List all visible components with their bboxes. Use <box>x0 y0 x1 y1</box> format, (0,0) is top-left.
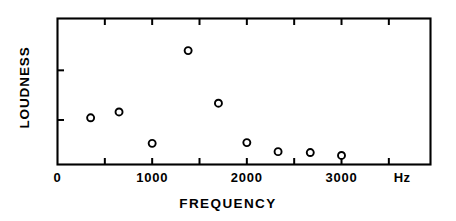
data-point <box>149 140 156 147</box>
x-tick-label: 3000 <box>325 170 357 185</box>
x-tick-label: 1000 <box>136 170 168 185</box>
data-point-series <box>87 47 345 159</box>
x-axis-unit-label: Hz <box>394 170 411 185</box>
x-tick-label: 2000 <box>231 170 263 185</box>
x-axis-ticks <box>105 19 389 165</box>
scatter-plot-canvas <box>0 0 456 221</box>
data-point <box>338 152 345 159</box>
x-tick-label: 0 <box>53 170 61 185</box>
data-point <box>215 100 222 107</box>
data-point <box>275 148 282 155</box>
data-point <box>116 108 123 115</box>
data-point <box>243 139 250 146</box>
data-point <box>87 114 94 121</box>
data-point <box>307 149 314 156</box>
data-point <box>185 47 192 54</box>
x-axis-title: FREQUENCY <box>0 196 456 211</box>
chart-figure: LOUDNESS FREQUENCY 0100020003000 Hz <box>0 0 456 221</box>
y-axis-title: LOUDNESS <box>17 23 32 153</box>
